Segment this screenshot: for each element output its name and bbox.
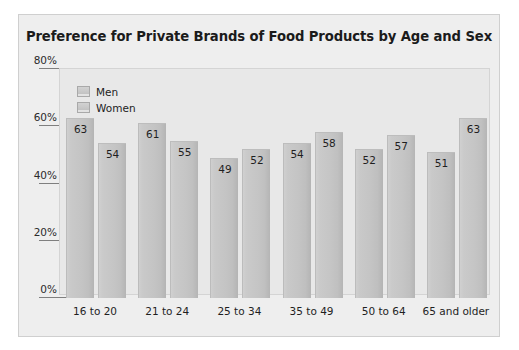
bar-women-3[interactable]: 58 — [315, 132, 343, 298]
bar-women-0[interactable]: 54 — [98, 143, 126, 298]
bar-value-label: 52 — [356, 154, 383, 166]
bar-value-label: 57 — [388, 140, 415, 152]
bar-value-label: 51 — [428, 157, 455, 169]
bar-value-label: 58 — [316, 137, 343, 149]
bar-value-label: 55 — [171, 146, 198, 158]
category-label: 50 to 64 — [348, 305, 420, 317]
bar-value-label: 63 — [460, 123, 487, 135]
category-label: 35 to 49 — [276, 305, 348, 317]
legend-label: Women — [96, 102, 136, 114]
legend-item-women[interactable]: Women — [77, 101, 136, 114]
chart-title: Preference for Private Brands of Food Pr… — [19, 29, 499, 44]
y-axis-label: 60% — [19, 111, 57, 125]
bar-value-label: 52 — [243, 154, 270, 166]
bar-men-5[interactable]: 51 — [427, 152, 455, 298]
bar-men-1[interactable]: 61 — [138, 123, 166, 298]
legend-label: Men — [96, 86, 118, 98]
y-axis-label: 20% — [19, 226, 57, 240]
bar-women-1[interactable]: 55 — [170, 141, 198, 298]
bar-men-3[interactable]: 54 — [283, 143, 311, 298]
bar-value-label: 54 — [99, 148, 126, 160]
category-label: 21 to 24 — [131, 305, 203, 317]
y-axis-label: 0% — [19, 283, 57, 297]
bar-women-2[interactable]: 52 — [242, 149, 270, 298]
bar-value-label: 61 — [139, 128, 166, 140]
category-label: 65 and older — [420, 305, 492, 317]
bar-men-0[interactable]: 63 — [66, 118, 94, 298]
bar-value-label: 63 — [67, 123, 94, 135]
y-axis-label: 80% — [19, 54, 57, 68]
y-axis-label: 40% — [19, 169, 57, 183]
chart-frame: Preference for Private Brands of Food Pr… — [18, 14, 500, 337]
bar-value-label: 49 — [211, 163, 238, 175]
legend-swatch-icon — [77, 86, 90, 97]
bar-women-5[interactable]: 63 — [459, 118, 487, 298]
chart-screenshot: Preference for Private Brands of Food Pr… — [0, 0, 519, 350]
category-label: 16 to 20 — [59, 305, 131, 317]
bar-men-2[interactable]: 49 — [210, 158, 238, 298]
category-label: 25 to 34 — [203, 305, 275, 317]
legend-swatch-icon — [77, 102, 90, 113]
bar-men-4[interactable]: 52 — [355, 149, 383, 298]
bar-women-4[interactable]: 57 — [387, 135, 415, 298]
bar-value-label: 54 — [284, 148, 311, 160]
chart-legend: MenWomen — [77, 85, 136, 114]
legend-item-men[interactable]: Men — [77, 85, 136, 98]
